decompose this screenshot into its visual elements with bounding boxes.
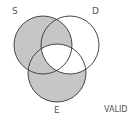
verdict-label: VALID	[104, 106, 127, 114]
label-s: S	[12, 7, 18, 16]
label-d: D	[92, 7, 99, 16]
venn-diagram	[0, 0, 131, 117]
label-e: E	[54, 106, 60, 115]
